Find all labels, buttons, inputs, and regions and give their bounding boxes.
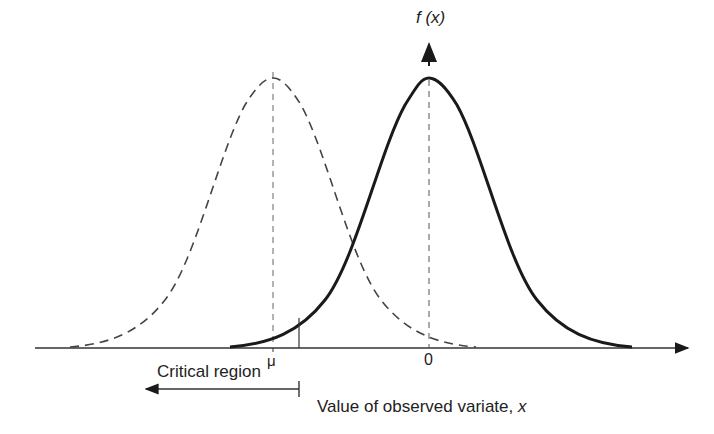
tick-label-mu: μ <box>267 352 276 369</box>
null-curve <box>230 78 632 347</box>
x-axis-label: Value of observed variate, x <box>317 397 526 417</box>
y-axis-label: f (x) <box>416 8 445 28</box>
critical-region-label: Critical region <box>157 362 261 382</box>
hypothesis-test-diagram <box>0 0 714 434</box>
tick-label-zero: 0 <box>424 351 433 369</box>
x-axis-label-var: x <box>518 397 527 416</box>
x-axis-label-text: Value of observed variate, <box>317 397 518 416</box>
